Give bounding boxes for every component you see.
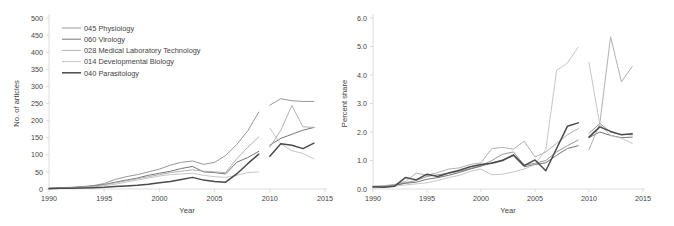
percent-share-chart-svg: 0.01.02.03.04.05.06.01990199520002005201… xyxy=(338,0,674,226)
series-line-014-developmental-biology-seg1 xyxy=(270,128,314,159)
y-tick-label: 0.0 xyxy=(357,185,367,194)
y-tick-label: 400 xyxy=(31,48,43,57)
x-tick-label: 2000 xyxy=(473,194,489,203)
legend-item-040: 040 Parasitology xyxy=(62,69,139,78)
legend-item-045: 045 Physiology xyxy=(62,24,134,33)
y-tick-label: 500 xyxy=(31,14,43,23)
x-tick-label: 1995 xyxy=(419,194,435,203)
series-line-028-medical-laboratory-technology-seg1 xyxy=(589,37,632,150)
series-line-040-parasitology-seg1 xyxy=(270,143,314,156)
series-line-045-physiology-seg1 xyxy=(270,99,314,106)
legend-label-014: 014 Developmental Biology xyxy=(84,57,174,66)
y-tick-label: 150 xyxy=(31,133,43,142)
legend-label-028: 028 Medical Laboratory Technology xyxy=(84,46,201,55)
y-tick-label: 450 xyxy=(31,31,43,40)
y-tick-label: 200 xyxy=(31,116,43,125)
legend-item-028: 028 Medical Laboratory Technology xyxy=(62,46,201,55)
y-axis-title: Percent share xyxy=(340,80,349,127)
x-tick-label: 2005 xyxy=(527,194,543,203)
y-tick-label: 350 xyxy=(31,65,43,74)
x-tick-label: 1990 xyxy=(365,194,381,203)
legend-label-040: 040 Parasitology xyxy=(84,69,139,78)
x-tick-label: 1995 xyxy=(96,194,112,203)
x-tick-label: 2010 xyxy=(581,194,597,203)
x-tick-label: 2015 xyxy=(317,194,333,203)
chart-panel-percent-share: 0.01.02.03.04.05.06.01990199520002005201… xyxy=(338,0,674,226)
series-line-040-parasitology-seg0 xyxy=(373,123,578,187)
y-tick-label: 3.0 xyxy=(357,99,367,108)
x-tick-label: 1990 xyxy=(41,194,57,203)
y-axis-title: No. of articles xyxy=(12,80,21,127)
legend-item-060: 060 Virology xyxy=(62,35,125,44)
y-tick-label: 1.0 xyxy=(357,156,367,165)
series-line-040-parasitology-seg0 xyxy=(49,154,259,189)
legend-label-045: 045 Physiology xyxy=(84,24,134,33)
y-tick-label: 100 xyxy=(31,150,43,159)
y-tick-label: 6.0 xyxy=(357,14,367,23)
x-tick-label: 2000 xyxy=(151,194,167,203)
y-tick-label: 300 xyxy=(31,82,43,91)
x-axis-title: Year xyxy=(179,206,195,215)
x-tick-label: 2005 xyxy=(207,194,223,203)
y-tick-label: 50 xyxy=(35,168,43,177)
x-tick-label: 2015 xyxy=(635,194,651,203)
two-panel-line-chart-figure: 0501001502002503003504004505001990199520… xyxy=(0,0,674,226)
x-axis-title: Year xyxy=(500,206,516,215)
y-tick-label: 2.0 xyxy=(357,128,367,137)
legend-label-060: 060 Virology xyxy=(84,35,125,44)
y-tick-label: 4.0 xyxy=(357,71,367,80)
chart-panel-articles: 0501001502002503003504004505001990199520… xyxy=(0,0,338,226)
legend-item-014: 014 Developmental Biology xyxy=(62,57,174,66)
articles-chart-svg: 0501001502002503003504004505001990199520… xyxy=(0,0,338,226)
y-tick-label: 5.0 xyxy=(357,42,367,51)
y-tick-label: 0 xyxy=(39,185,43,194)
x-tick-label: 2010 xyxy=(262,194,278,203)
y-tick-label: 250 xyxy=(31,99,43,108)
